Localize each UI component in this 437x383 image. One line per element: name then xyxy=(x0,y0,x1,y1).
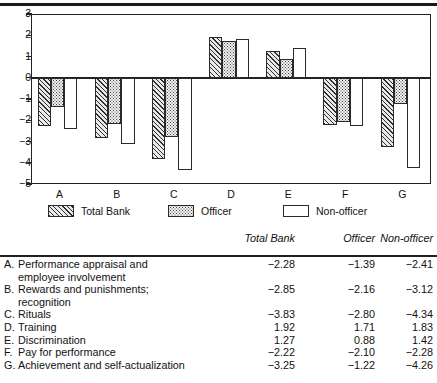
legend-label: Total Bank xyxy=(81,205,130,217)
bar xyxy=(121,78,134,144)
column-header: Total Bank xyxy=(244,232,295,244)
plot-frame xyxy=(31,14,431,184)
legend-item: Non-officer xyxy=(283,205,367,217)
legend-item: Total Bank xyxy=(48,205,130,217)
table-row: C.Rituals−3.83−2.80−4.34 xyxy=(0,308,437,321)
bar xyxy=(222,41,235,77)
table-row: B.Rewards and punishments;recognition−2.… xyxy=(0,283,437,308)
row-label: F.Pay for performance xyxy=(4,346,116,359)
row-value: −1.22 xyxy=(348,359,375,372)
bar xyxy=(38,78,51,126)
table-row: G.Achievement and self-actualization−3.2… xyxy=(0,359,437,372)
row-label: G.Achievement and self-actualization xyxy=(4,359,185,372)
row-label: B.Rewards and punishments; xyxy=(4,283,149,296)
table-column-headers: Total BankOfficerNon-officer xyxy=(0,232,437,248)
row-value: −2.28 xyxy=(406,346,433,359)
table-row: A.Performance appraisal andemployee invo… xyxy=(0,258,437,283)
row-value: −2.28 xyxy=(268,258,295,271)
legend-swatch-stipple-dot xyxy=(168,205,194,217)
bar xyxy=(323,78,336,125)
table-row: F.Pay for performance−2.22−2.10−2.28 xyxy=(0,346,437,359)
bar-chart: 3210−1−2−3−4−5 ABCDEFG xyxy=(0,10,437,200)
row-value: −2.85 xyxy=(268,283,295,296)
legend-label: Officer xyxy=(201,205,232,217)
x-tick-label: F xyxy=(330,188,360,200)
legend-label: Non-officer xyxy=(316,205,367,217)
data-table: Total BankOfficerNon-officer A.Performan… xyxy=(0,232,437,383)
column-header: Officer xyxy=(343,232,375,244)
x-tick-label: D xyxy=(216,188,246,200)
bar xyxy=(178,78,191,170)
row-label: A.Performance appraisal and xyxy=(4,258,148,271)
row-letter: F. xyxy=(4,346,18,359)
row-letter: B. xyxy=(4,283,18,296)
legend-item: Officer xyxy=(168,205,232,217)
row-value: −1.39 xyxy=(348,258,375,271)
row-value: −2.80 xyxy=(348,308,375,321)
bar xyxy=(407,78,420,169)
row-label-line2: recognition xyxy=(18,296,71,309)
bar xyxy=(350,78,363,126)
row-label: E.Discrimination xyxy=(4,334,86,347)
row-value: −3.83 xyxy=(268,308,295,321)
row-value: −4.26 xyxy=(406,359,433,372)
bar xyxy=(64,78,77,129)
x-tick-label: A xyxy=(45,188,75,200)
x-tick-label: C xyxy=(159,188,189,200)
row-value: −3.12 xyxy=(406,283,433,296)
row-value: −3.25 xyxy=(268,359,295,372)
bar xyxy=(95,78,108,139)
bar xyxy=(236,39,249,78)
x-tick-label: G xyxy=(387,188,417,200)
row-value: −2.10 xyxy=(348,346,375,359)
row-value: 1.92 xyxy=(274,321,295,334)
table-row: D.Training1.921.711.83 xyxy=(0,321,437,334)
chart-legend: Total BankOfficerNon-officer xyxy=(0,205,437,227)
table-rows: A.Performance appraisal andemployee invo… xyxy=(0,258,437,371)
row-letter: A. xyxy=(4,258,18,271)
column-header: Non-officer xyxy=(380,232,433,244)
bar xyxy=(381,78,394,147)
row-value: −2.16 xyxy=(348,283,375,296)
bar xyxy=(108,78,121,124)
row-label: C.Rituals xyxy=(4,308,51,321)
row-letter: G. xyxy=(4,359,18,372)
row-letter: C. xyxy=(4,308,18,321)
row-value: 1.83 xyxy=(412,321,433,334)
bar xyxy=(394,78,407,104)
row-value: 1.42 xyxy=(412,334,433,347)
bar xyxy=(266,51,279,78)
row-value: −2.41 xyxy=(406,258,433,271)
row-label-line2: employee involvement xyxy=(18,271,125,284)
row-value: 1.27 xyxy=(274,334,295,347)
legend-swatch-diagonal-hatch xyxy=(48,205,74,217)
bar xyxy=(280,59,293,78)
row-value: 0.88 xyxy=(354,334,375,347)
row-value: −4.34 xyxy=(406,308,433,321)
x-tick-label: E xyxy=(273,188,303,200)
row-letter: E. xyxy=(4,334,18,347)
y-axis: 3210−1−2−3−4−5 xyxy=(0,10,31,200)
row-value: 1.71 xyxy=(354,321,375,334)
legend-swatch-open-white xyxy=(283,205,309,217)
top-horizontal-rule xyxy=(0,3,437,6)
bar xyxy=(209,37,222,78)
table-header-rule xyxy=(0,255,437,257)
row-label: D.Training xyxy=(4,321,57,334)
bar xyxy=(337,78,350,123)
bar xyxy=(51,78,64,108)
x-tick-label: B xyxy=(102,188,132,200)
bar xyxy=(293,48,306,78)
bar xyxy=(165,78,178,138)
row-letter: D. xyxy=(4,321,18,334)
bar xyxy=(152,78,165,159)
table-row: E.Discrimination1.270.881.42 xyxy=(0,334,437,347)
row-value: −2.22 xyxy=(268,346,295,359)
